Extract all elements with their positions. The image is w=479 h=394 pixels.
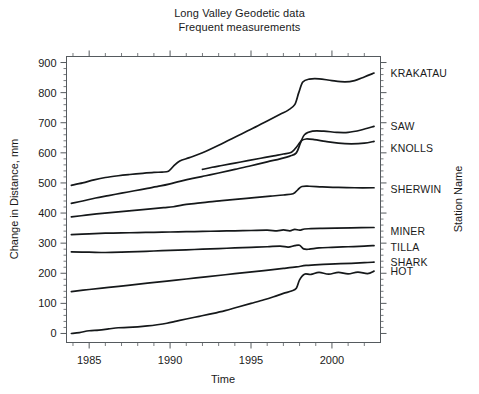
station-label-krakatau: KRAKATAU — [391, 67, 448, 79]
series-line-shark — [71, 262, 374, 292]
line-chart-plot: 0100200300400500600700800900 19851990199… — [0, 0, 479, 394]
station-label-miner: MINER — [391, 225, 426, 237]
y-tick-label-800: 800 — [38, 87, 56, 99]
x-tick-label-group: 1985199019952000 — [77, 354, 344, 366]
y-tick-label-200: 200 — [38, 267, 56, 279]
chart-figure: Long Valley Geodetic data Frequent measu… — [0, 0, 479, 394]
series-layer — [71, 73, 374, 333]
y-axis-title: Change in Distance, mm — [8, 139, 20, 259]
y-tick-label-300: 300 — [38, 237, 56, 249]
series-line-hot — [71, 271, 374, 333]
station-label-tilla: TILLA — [391, 241, 420, 253]
y-tick-label-700: 700 — [38, 117, 56, 129]
station-label-hot: HOT — [391, 265, 414, 277]
y-tick-label-100: 100 — [38, 297, 56, 309]
x-tick-label-2000: 2000 — [320, 354, 344, 366]
y-tick-label-600: 600 — [38, 147, 56, 159]
y-tick-label-500: 500 — [38, 177, 56, 189]
series-line-sherwin — [71, 186, 374, 217]
station-label-knolls: KNOLLS — [391, 142, 434, 154]
x-tick-label-1985: 1985 — [77, 354, 101, 366]
x-tick-label-1990: 1990 — [158, 354, 182, 366]
series-line-knolls — [202, 139, 374, 169]
y-tick-label-900: 900 — [38, 57, 56, 69]
series-line-tilla — [71, 245, 374, 252]
x-tick-label-1995: 1995 — [239, 354, 263, 366]
station-label-group: KRAKATAUSAWKNOLLSSHERWINMINERTILLASHARKH… — [391, 67, 448, 277]
plot-frame — [67, 57, 381, 343]
station-label-sherwin: SHERWIN — [391, 183, 442, 195]
right-axis-title: Station Name — [452, 166, 464, 233]
station-label-saw: SAW — [391, 120, 415, 132]
y-tick-label-0: 0 — [50, 327, 56, 339]
axis-ticks-group — [61, 51, 387, 349]
x-axis-title: Time — [211, 373, 235, 385]
y-tick-label-group: 0100200300400500600700800900 — [38, 57, 56, 340]
series-line-krakatau — [71, 73, 374, 185]
y-tick-label-400: 400 — [38, 207, 56, 219]
series-line-miner — [71, 228, 374, 235]
